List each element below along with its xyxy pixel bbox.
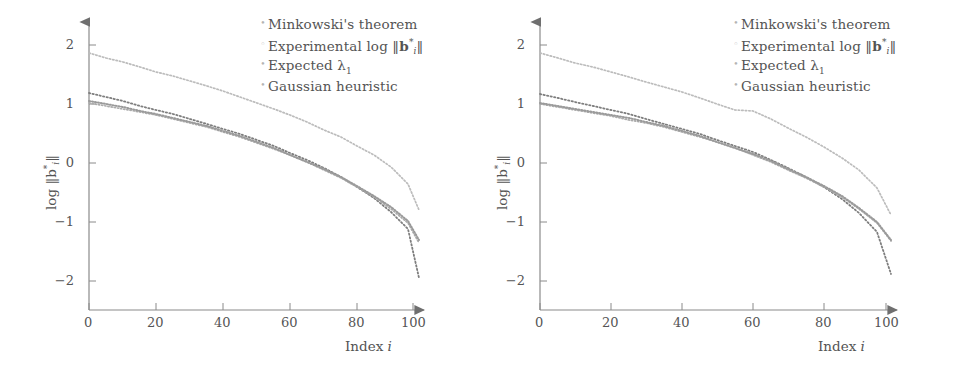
y-axis-ticks (89, 45, 96, 281)
legend-left: • Minkowski's theorem ◦ Experimental log… (258, 16, 473, 98)
legend-item-gaussian: • Gaussian heuristic (731, 78, 946, 99)
y-axis-title: log ‖b*i‖ (42, 155, 61, 210)
legend-item-gaussian: • Gaussian heuristic (258, 78, 473, 99)
x-tick-label-80: 80 (348, 315, 365, 330)
legend-item-experimental: ◦ Experimental log ‖b*i‖ (731, 37, 946, 58)
x-tick-label-100: 100 (401, 315, 426, 330)
x-axis-title: Index i (818, 338, 865, 354)
legend-label-gaussian: Gaussian heuristic (741, 78, 871, 94)
x-tick-label-40: 40 (673, 315, 690, 330)
series-expected-lambda1 (540, 94, 891, 274)
dot-marker-icon: • (258, 81, 268, 90)
x-tick-label-40: 40 (214, 315, 231, 330)
x-tick-label-20: 20 (602, 315, 619, 330)
dot-marker-icon: • (731, 19, 741, 28)
chart-panel-left: • Minkowski's theorem ◦ Experimental log… (0, 0, 479, 371)
y-tick-label-2: 2 (503, 37, 525, 52)
y-tick-label-neg2: −2 (497, 273, 525, 288)
series-gaussian-heuristic (540, 104, 891, 241)
legend-item-expected: • Expected λ1 (731, 57, 946, 78)
dot-marker-icon: • (731, 81, 741, 90)
legend-label-gaussian: Gaussian heuristic (268, 78, 398, 94)
legend-label-expected: Expected λ1 (268, 57, 352, 76)
legend-item-minkowski: • Minkowski's theorem (731, 16, 946, 37)
dot-marker-icon: • (731, 60, 741, 69)
circle-marker-icon: ◦ (258, 40, 268, 49)
legend-label-experimental: Experimental log ‖b*i‖ (741, 37, 896, 56)
legend-label-expected: Expected λ1 (741, 57, 825, 76)
y-tick-label-2: 2 (52, 37, 74, 52)
series-gaussian-heuristic (89, 103, 419, 243)
x-axis-ticks (540, 303, 886, 310)
x-tick-label-60: 60 (744, 315, 761, 330)
legend-item-experimental: ◦ Experimental log ‖b*i‖ (258, 37, 473, 58)
y-axis-ticks (540, 45, 547, 281)
legend-label-experimental: Experimental log ‖b*i‖ (268, 37, 423, 56)
x-tick-label-20: 20 (147, 315, 164, 330)
circle-marker-icon: ◦ (731, 40, 741, 49)
x-tick-label-60: 60 (281, 315, 298, 330)
y-tick-label-neg1: −1 (497, 214, 525, 229)
y-axis-title: log ‖b*i‖ (493, 155, 512, 210)
x-axis-ticks (89, 303, 413, 310)
legend-item-minkowski: • Minkowski's theorem (258, 16, 473, 37)
y-tick-label-1: 1 (52, 96, 74, 111)
dot-marker-icon: • (258, 19, 268, 28)
x-tick-label-80: 80 (815, 315, 832, 330)
dot-marker-icon: • (258, 60, 268, 69)
legend-label-minkowski: Minkowski's theorem (741, 16, 890, 32)
series-experimental (89, 101, 419, 240)
x-tick-label-0: 0 (84, 315, 92, 330)
y-tick-label-neg1: −1 (46, 214, 74, 229)
legend-item-expected: • Expected λ1 (258, 57, 473, 78)
series-experimental (540, 103, 891, 240)
y-tick-label-1: 1 (503, 96, 525, 111)
chart-panel-right: • Minkowski's theorem ◦ Experimental log… (479, 0, 959, 371)
x-tick-label-100: 100 (874, 315, 899, 330)
series-expected-lambda1 (89, 93, 419, 278)
legend-right: • Minkowski's theorem ◦ Experimental log… (731, 16, 946, 98)
x-axis-title: Index i (345, 338, 392, 354)
x-tick-label-0: 0 (535, 315, 543, 330)
legend-label-minkowski: Minkowski's theorem (268, 16, 417, 32)
figure-two-panel: • Minkowski's theorem ◦ Experimental log… (0, 0, 959, 371)
y-tick-label-neg2: −2 (46, 273, 74, 288)
